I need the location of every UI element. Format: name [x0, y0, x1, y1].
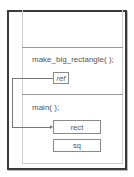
frame-label-main: main( ); [32, 103, 59, 112]
frame-divider-middle [22, 94, 123, 95]
arrowhead-icon [50, 125, 53, 129]
reference-line-horizontal-bottom [12, 127, 50, 128]
frame-divider-top [22, 47, 123, 48]
variable-box-sq: sq [53, 139, 101, 152]
reference-line-vertical [12, 78, 13, 128]
variable-box-ref: ref [53, 72, 69, 84]
reference-line-horizontal-top [12, 78, 53, 79]
frame-label-make-big-rectangle: make_big_rectangle( ); [32, 55, 114, 64]
variable-box-rect: rect [53, 120, 101, 134]
